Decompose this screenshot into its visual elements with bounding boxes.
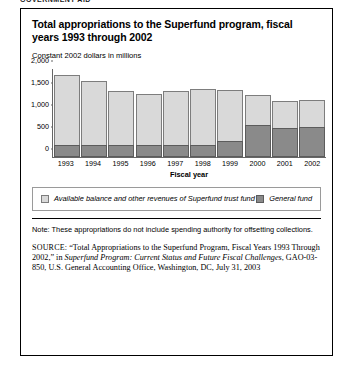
x-axis-tick-label: 1993 [53,159,79,168]
x-axis-tick-label: 2000 [244,159,270,168]
bar-segment-general-fund [81,145,107,157]
x-axis-tick-label: 1994 [80,159,106,168]
bar-column [299,69,325,157]
y-axis-tick-label: 1,000 [31,100,53,109]
bar-column [190,69,216,157]
bar-series-group [53,69,326,157]
bar-segment-general-fund [272,128,298,157]
x-axis-title: Fiscal year [52,170,326,179]
chart-legend: Available balance and other revenues of … [32,187,321,211]
legend-item-trust-fund: Available balance and other revenues of … [41,194,256,204]
y-axis-tick-label: 0 [45,144,53,153]
source-publication: Superfund Program: Current Status and Fu… [65,253,282,262]
x-axis-tick-label: 1999 [217,159,243,168]
bar-segment-general-fund [217,141,243,157]
figure-note: Note: These appropriations do not includ… [32,225,321,235]
figure-title: Total appropriations to the Superfund pr… [32,18,321,43]
bar-chart: 05001,0001,5002,000 19931994199519961997… [21,67,332,185]
bar-column [54,69,80,157]
plot-area: 05001,0001,5002,000 [52,69,326,158]
x-axis-tick-label: 2001 [272,159,298,168]
x-axis-tick-label: 2002 [299,159,325,168]
bar-column [81,69,107,157]
bar-segment-trust-fund [272,101,298,128]
running-head: GOVERNMENT AID [20,0,91,3]
x-axis-tick-label: 1996 [135,159,161,168]
bar-segment-general-fund [245,125,271,157]
bar-segment-trust-fund [108,91,134,146]
bar-segment-trust-fund [54,75,80,145]
bar-segment-general-fund [190,145,216,157]
x-axis-tick-label: 1997 [162,159,188,168]
bar-segment-trust-fund [163,91,189,145]
y-axis-tick-label: 2,000 [31,56,53,65]
bar-segment-trust-fund [217,90,243,141]
legend-swatch-icon-trust-fund [41,195,49,203]
source-tag: SOURCE: [32,243,67,252]
bar-column [245,69,271,157]
figure-container: Total appropriations to the Superfund pr… [20,8,333,356]
x-axis-tick-label: 1998 [190,159,216,168]
bar-column [272,69,298,157]
y-axis-tick-label: 1,500 [31,78,53,87]
legend-label-trust-fund: Available balance and other revenues of … [54,194,255,204]
bar-segment-trust-fund [136,94,162,145]
bar-segment-general-fund [136,145,162,157]
bar-column [136,69,162,157]
x-axis-tick-label: 1995 [107,159,133,168]
bar-segment-trust-fund [81,81,107,145]
legend-label-general-fund: General fund [269,194,312,204]
legend-item-general-fund: General fund [256,194,312,204]
bar-segment-trust-fund [299,100,325,127]
bar-segment-general-fund [163,145,189,157]
source-in-word: in [56,253,62,262]
figure-source: SOURCE: “Total Appropriations to the Sup… [32,243,321,274]
bar-column [217,69,243,157]
bar-segment-general-fund [299,127,325,157]
bar-column [108,69,134,157]
bar-segment-trust-fund [245,95,271,125]
figure-divider [32,218,321,219]
bar-column [163,69,189,157]
x-axis-tick-labels: 1993199419951996199719981999200020012002 [52,159,326,168]
y-axis-tick-label: 500 [37,122,53,131]
bar-segment-general-fund [108,145,134,157]
bar-segment-general-fund [54,145,80,157]
bar-segment-trust-fund [190,89,216,145]
legend-swatch-icon-general-fund [256,195,264,203]
figure-subtitle: Constant 2002 dollars in millions [32,51,321,60]
